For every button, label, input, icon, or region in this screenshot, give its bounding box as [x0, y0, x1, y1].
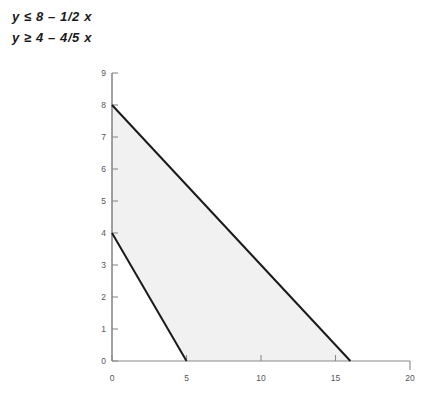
y-tick-label-4: 4	[101, 228, 106, 238]
y-tick-label-3: 3	[101, 260, 106, 270]
x-axis-ticks	[112, 355, 410, 370]
x-tick-label-0: 0	[110, 373, 115, 383]
y-tick-label-2: 2	[101, 292, 106, 302]
x-tick-label-10: 10	[256, 373, 266, 383]
y-tick-label-9: 9	[101, 68, 106, 78]
y-tick-label-1: 1	[101, 324, 106, 334]
y-tick-label-0: 0	[101, 356, 106, 366]
y-tick-label-7: 7	[101, 132, 106, 142]
x-tick-label-5: 5	[184, 373, 189, 383]
x-tick-label-20: 20	[405, 373, 415, 383]
y-tick-label-6: 6	[101, 164, 106, 174]
y-tick-label-8: 8	[101, 100, 106, 110]
feasible-region-plot: 0 1 2 3 4 5 6 7 8 9 0 5 10 15 20	[0, 0, 428, 398]
y-tick-label-5: 5	[101, 196, 106, 206]
x-tick-label-15: 15	[331, 373, 341, 383]
